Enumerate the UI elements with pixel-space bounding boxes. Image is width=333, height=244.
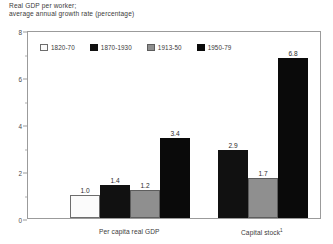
legend-item[interactable]: 1820-70 [40, 44, 75, 51]
bar-value-label: 6.8 [288, 50, 297, 57]
bar: 1.2 [130, 190, 160, 218]
bar-value-label: 1.4 [110, 177, 119, 184]
chart-title-line-2: average annual growth rate (percentage) [9, 10, 134, 17]
bar-value-label: 1.0 [80, 187, 89, 194]
category-label: Capital stock1 [241, 228, 283, 236]
bar: 1.7 [248, 178, 278, 218]
bar: 2.9 [218, 150, 248, 218]
y-tick-label: 4 [2, 123, 22, 130]
y-tick-label: 6 [2, 76, 22, 83]
legend-swatch-icon [197, 44, 205, 51]
y-tick-label: 0 [2, 217, 22, 224]
y-tick-label: 8 [2, 29, 22, 36]
y-axis: 02468 [0, 31, 27, 220]
legend-label: 1950-79 [208, 44, 232, 51]
bar: 1.0 [70, 195, 100, 219]
legend-item[interactable]: 1870-1930 [90, 44, 132, 51]
plot-inner: 1820-701870-19301913-501950-79 1.01.41.2… [28, 32, 320, 218]
bar-value-label: 3.4 [170, 130, 179, 137]
legend-item[interactable]: 1913-50 [147, 44, 182, 51]
legend-swatch-icon [147, 44, 155, 51]
bar: 1.4 [100, 185, 130, 218]
bar-value-label: 2.9 [228, 142, 237, 149]
chart-legend: 1820-701870-19301913-501950-79 [40, 44, 246, 51]
y-tick-mark [23, 220, 27, 221]
legend-item[interactable]: 1950-79 [197, 44, 232, 51]
category-label: Per capita real GDP [99, 228, 160, 235]
bar-value-label: 1.7 [258, 170, 267, 177]
footnote-marker: 1 [280, 228, 283, 233]
legend-label: 1820-70 [51, 44, 75, 51]
bar: 6.8 [278, 58, 308, 218]
bar-value-label: 1.2 [140, 182, 149, 189]
chart-title: Real GDP per worker; average annual grow… [9, 2, 134, 19]
chart-title-line-1: Real GDP per worker; [9, 2, 76, 9]
chart-figure: Real GDP per worker; average annual grow… [0, 0, 333, 244]
plot-area: 1820-701870-19301913-501950-79 1.01.41.2… [27, 31, 321, 219]
bar: 3.4 [160, 138, 190, 218]
legend-swatch-icon [40, 44, 48, 51]
legend-label: 1870-1930 [101, 44, 132, 51]
legend-label: 1913-50 [158, 44, 182, 51]
y-tick-label: 2 [2, 170, 22, 177]
legend-swatch-icon [90, 44, 98, 51]
